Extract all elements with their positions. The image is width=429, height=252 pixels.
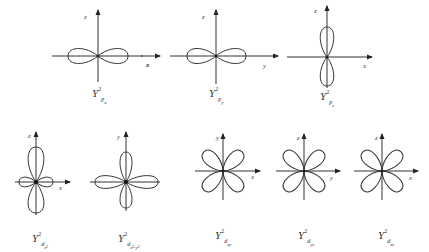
axis-label-y: y: [116, 133, 121, 141]
axis-label-x: x: [408, 174, 413, 182]
panel-dx2y2: y: [90, 132, 160, 211]
axis-label-y: y: [262, 62, 267, 70]
caption-dxy: Y2dxy: [215, 229, 232, 245]
caption-dyz: Y2dyz: [298, 229, 314, 245]
panel-pz: z x: [287, 6, 372, 88]
axis-label-y: y: [329, 174, 334, 182]
axis-label-z: z: [296, 134, 300, 142]
panel-px: z x: [52, 10, 150, 82]
axis-label-x: x: [145, 61, 150, 69]
axis-label-x: x: [362, 62, 367, 70]
axis-label-x: x: [58, 184, 63, 192]
panel-dxz: z x: [354, 134, 418, 200]
orbital-diagram: z x z y x z x z x: [0, 0, 429, 252]
panel-dz2: z x: [15, 132, 70, 215]
caption-dxz: Y2dxz: [378, 229, 394, 245]
axis-label-z: z: [201, 13, 205, 21]
caption-dz2: Y2dz²: [32, 232, 48, 248]
caption-py: Y2py: [209, 87, 223, 103]
axis-label-z: z: [27, 132, 31, 140]
axis-label-z: z: [83, 13, 87, 21]
caption-px: Y2px: [92, 87, 106, 103]
axis-label-z: z: [313, 7, 317, 15]
panel-dxy: y x: [195, 134, 260, 200]
axis-label-z: z: [374, 134, 378, 142]
axis-label-x: x: [250, 173, 255, 181]
caption-dx2y2: Y2dx²-y²: [118, 232, 139, 248]
axis-label-y: y: [215, 134, 220, 142]
panel-dyz: z y: [276, 134, 340, 200]
caption-pz: Y2pz: [320, 90, 334, 106]
panel-py: z y x: [141, 10, 278, 84]
